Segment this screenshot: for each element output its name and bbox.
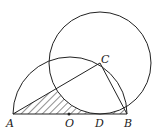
label-d: D <box>94 117 104 130</box>
shaded-region <box>13 63 127 114</box>
geometry-diagram: A O D B C <box>0 0 159 134</box>
label-o: O <box>65 117 74 130</box>
label-a: A <box>5 117 14 130</box>
label-b: B <box>123 117 132 130</box>
point-o-dot <box>68 113 71 116</box>
label-c: C <box>101 53 110 66</box>
